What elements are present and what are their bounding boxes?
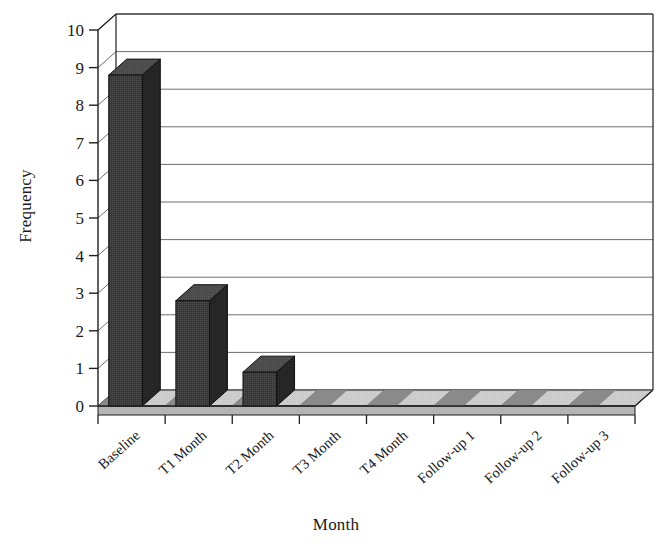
y-axis-tick-label: 9 (50, 59, 84, 76)
y-axis-title: Frequency (16, 136, 36, 276)
y-axis-tick-label: 5 (50, 210, 84, 227)
y-axis-tick-label: 4 (50, 247, 84, 264)
bar (176, 285, 228, 406)
y-axis-tick-label: 7 (50, 134, 84, 151)
y-axis-tick-label: 2 (50, 322, 84, 339)
y-axis-tick-label: 8 (50, 97, 84, 114)
y-axis-tick-label: 10 (50, 22, 84, 39)
bar (109, 59, 161, 406)
y-axis-tick-label: 3 (50, 285, 84, 302)
y-axis-tick-label: 0 (50, 398, 84, 415)
y-axis-tick-label: 6 (50, 172, 84, 189)
y-axis-tick-label: 1 (50, 360, 84, 377)
bar-chart: Frequency Month 012345678910 BaselineT1 … (0, 0, 672, 553)
